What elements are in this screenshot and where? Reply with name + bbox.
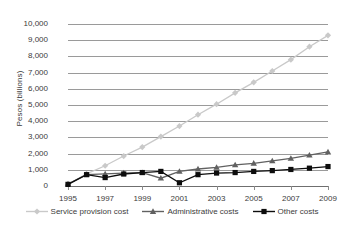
- data-point-marker: [214, 170, 219, 175]
- legend-item[interactable]: Administrative costs: [142, 206, 238, 217]
- data-point-marker: [121, 153, 127, 159]
- x-axis-tick-label: 2005: [234, 194, 274, 203]
- x-axis-tick-mark: [217, 186, 218, 190]
- x-axis-tick-label: 2009: [308, 194, 344, 203]
- legend-label: Administrative costs: [167, 207, 238, 216]
- data-point-marker: [270, 168, 275, 173]
- y-axis-tick-label: 4,000: [2, 117, 48, 125]
- x-axis-tick-label: 2001: [159, 194, 199, 203]
- data-point-marker: [102, 163, 108, 169]
- chart-legend: Service provision costAdministrative cos…: [0, 206, 344, 217]
- y-axis-tick-label: 8,000: [2, 52, 48, 60]
- y-axis-tick-label: 6,000: [2, 85, 48, 93]
- data-point-marker: [232, 90, 238, 96]
- series-service-provision-cost: [65, 32, 331, 187]
- data-point-marker: [158, 169, 163, 174]
- x-axis-line: [68, 186, 328, 187]
- data-point-marker: [84, 172, 89, 177]
- y-axis-tick-label: 3,000: [2, 133, 48, 141]
- x-axis-tick-mark: [142, 186, 143, 190]
- legend-marker-diamond-icon: [26, 206, 48, 217]
- plot-area: 10,0009,0008,0007,0006,0005,0004,0003,00…: [68, 24, 328, 186]
- x-axis-tick-mark: [254, 186, 255, 190]
- y-axis-tick-label: 10,000: [2, 20, 48, 28]
- y-axis-tick-label: 1,000: [2, 166, 48, 174]
- data-point-marker: [140, 170, 145, 175]
- data-point-marker: [65, 182, 70, 187]
- legend-item[interactable]: Other costs: [253, 206, 319, 217]
- data-point-marker: [158, 133, 164, 139]
- data-point-marker: [176, 123, 182, 129]
- x-axis-tick-label: 1995: [48, 194, 88, 203]
- data-point-marker: [261, 209, 266, 214]
- y-axis-tick-label: 7,000: [2, 69, 48, 77]
- data-point-marker: [288, 167, 293, 172]
- x-axis-tick-label: 1997: [85, 194, 125, 203]
- y-axis-tick-label: 5,000: [2, 101, 48, 109]
- data-point-marker: [195, 112, 201, 118]
- line-chart: Pesos (billions) 10,0009,0008,0007,0006,…: [0, 0, 344, 229]
- data-point-marker: [307, 166, 312, 171]
- data-point-marker: [251, 79, 257, 85]
- data-point-marker: [33, 208, 39, 214]
- x-axis-tick-label: 2007: [271, 194, 311, 203]
- series-line: [68, 35, 328, 184]
- y-axis-tick-label: 2,000: [2, 150, 48, 158]
- data-point-marker: [325, 164, 330, 169]
- data-point-marker: [325, 32, 331, 38]
- data-point-marker: [213, 101, 219, 107]
- data-point-marker: [233, 170, 238, 175]
- legend-label: Other costs: [278, 207, 319, 216]
- legend-item[interactable]: Service provision cost: [26, 206, 129, 217]
- x-axis-tick-label: 1999: [122, 194, 162, 203]
- x-axis-tick-mark: [328, 186, 329, 190]
- x-axis-tick-label: 2003: [197, 194, 237, 203]
- data-series-layer: [68, 24, 328, 186]
- data-point-marker: [325, 149, 331, 155]
- x-axis-tick-mark: [105, 186, 106, 190]
- data-point-marker: [251, 169, 256, 174]
- data-point-marker: [103, 175, 108, 180]
- data-point-marker: [269, 68, 275, 74]
- y-axis-tick-label: 9,000: [2, 36, 48, 44]
- x-axis-tick-mark: [179, 186, 180, 190]
- data-point-marker: [139, 144, 145, 150]
- data-point-marker: [195, 172, 200, 177]
- legend-marker-square-icon: [253, 206, 275, 217]
- data-point-marker: [121, 171, 126, 176]
- legend-marker-triangle-icon: [142, 206, 164, 217]
- y-axis-tick-label: 0: [2, 182, 48, 190]
- legend-label: Service provision cost: [51, 207, 129, 216]
- x-axis-tick-mark: [291, 186, 292, 190]
- data-point-marker: [177, 180, 182, 185]
